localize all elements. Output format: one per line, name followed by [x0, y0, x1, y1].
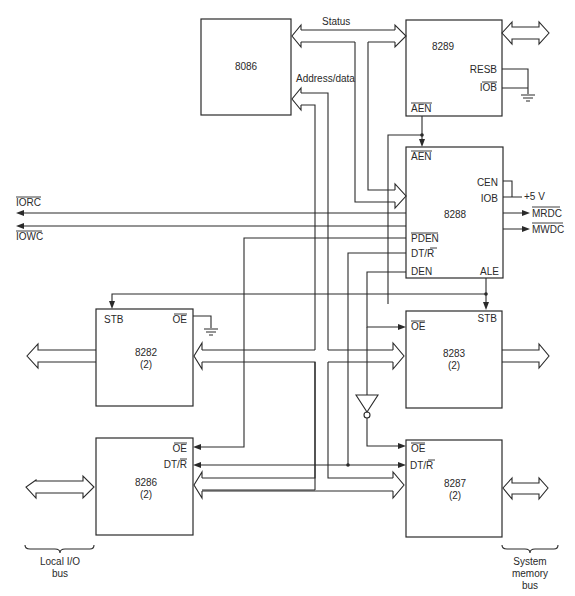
svg-text:IORC: IORC: [16, 197, 41, 208]
svg-text:8086: 8086: [235, 61, 258, 72]
svg-text:System: System: [513, 556, 546, 567]
circuit: 8086 8289 RESB IOB AEN AEN CEN IOB 8288 …: [0, 0, 575, 596]
svg-text:Local I/O: Local I/O: [40, 556, 80, 567]
svg-text:DT/R: DT/R: [410, 460, 433, 471]
svg-text:(2): (2): [140, 489, 152, 500]
svg-text:8289: 8289: [432, 41, 455, 52]
svg-text:DT/R: DT/R: [164, 459, 187, 470]
svg-text:8288: 8288: [444, 209, 467, 220]
block-8288: AEN CEN IOB 8288 PDEN DT/R DEN ALE: [406, 147, 503, 278]
svg-text:8283: 8283: [443, 348, 466, 359]
svg-text:IOB: IOB: [480, 82, 498, 93]
svg-text:bus: bus: [522, 580, 538, 591]
svg-text:STB: STB: [104, 314, 124, 325]
svg-text:8287: 8287: [444, 478, 467, 489]
svg-text:(2): (2): [140, 359, 152, 370]
svg-text:memory: memory: [512, 568, 548, 579]
svg-text:ALE: ALE: [480, 266, 499, 277]
svg-text:Address/data: Address/data: [296, 73, 355, 84]
block-8283: STB OE 8283 (2): [406, 311, 502, 408]
svg-text:CEN: CEN: [477, 177, 498, 188]
svg-text:RESB: RESB: [470, 64, 498, 75]
svg-text:OE: OE: [411, 321, 426, 332]
svg-text:+5 V: +5 V: [524, 191, 545, 202]
svg-text:OE: OE: [411, 443, 426, 454]
block-8086: 8086: [201, 19, 291, 115]
block-8287: OE DT/R 8287 (2): [406, 440, 502, 537]
svg-text:(2): (2): [448, 360, 460, 371]
svg-text:MRDC: MRDC: [532, 208, 562, 219]
svg-text:(2): (2): [449, 490, 461, 501]
block-8286: OE DT/R 8286 (2): [96, 438, 193, 535]
svg-text:DEN: DEN: [411, 266, 432, 277]
svg-text:DT/R: DT/R: [411, 248, 434, 259]
svg-text:OE: OE: [173, 314, 188, 325]
svg-text:OE: OE: [173, 443, 188, 454]
svg-text:Status: Status: [322, 16, 350, 27]
svg-text:bus: bus: [52, 568, 68, 579]
svg-text:MWDC: MWDC: [532, 224, 564, 235]
svg-text:8282: 8282: [135, 347, 158, 358]
svg-text:8286: 8286: [135, 477, 158, 488]
svg-text:IOWC: IOWC: [16, 231, 43, 242]
svg-text:AEN: AEN: [411, 103, 432, 114]
svg-text:AEN: AEN: [411, 151, 432, 162]
block-8289: 8289 RESB IOB AEN: [406, 20, 502, 116]
svg-text:PDEN: PDEN: [411, 233, 439, 244]
svg-text:IOB: IOB: [481, 193, 499, 204]
block-8282: STB OE 8282 (2): [96, 309, 193, 406]
svg-text:STB: STB: [478, 313, 498, 324]
